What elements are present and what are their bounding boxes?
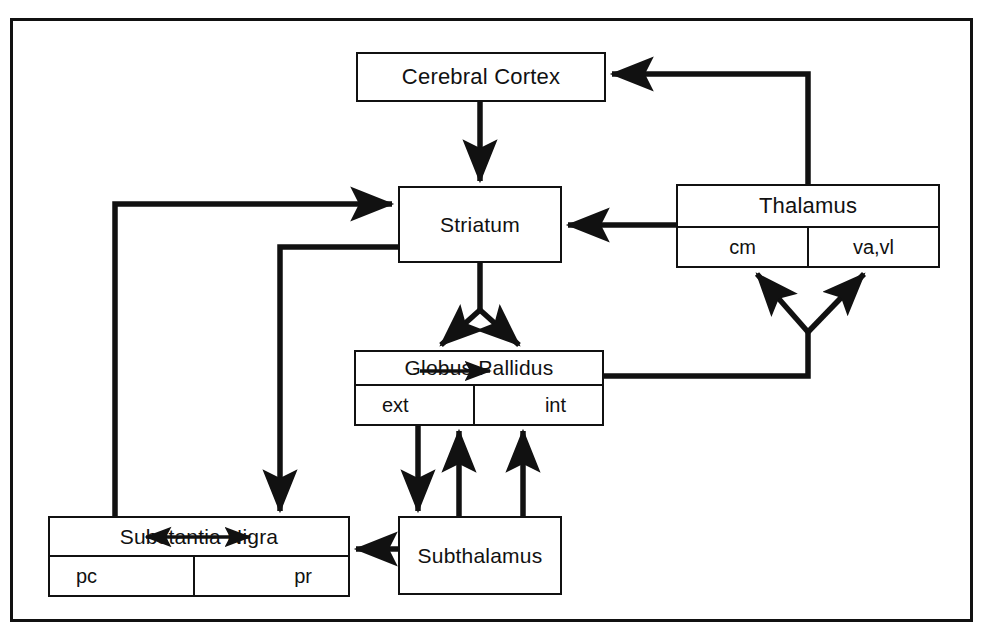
subcell-thalamus-cm[interactable]: cm (678, 228, 807, 266)
node-subthalamus-label: Subthalamus (400, 518, 560, 593)
subcell-nigra-pr[interactable]: pr (193, 557, 348, 595)
diagram-canvas: Cerebral Cortex Striatum Thalamus cm va,… (0, 0, 988, 642)
node-substantia-nigra-subcells: pc pr (50, 555, 348, 595)
subcell-globus-int[interactable]: int (473, 386, 602, 424)
node-striatum-label: Striatum (400, 188, 560, 261)
node-globus-pallidus-label: Globus Pallidus (356, 352, 602, 384)
subcell-nigra-pc[interactable]: pc (50, 557, 193, 595)
node-substantia-nigra[interactable]: Substantia Nigra pc pr (48, 516, 350, 597)
node-subthalamus[interactable]: Subthalamus (398, 516, 562, 595)
node-thalamus-label: Thalamus (678, 186, 938, 226)
node-substantia-nigra-label: Substantia Nigra (50, 518, 348, 555)
node-thalamus-subcells: cm va,vl (678, 226, 938, 266)
node-striatum[interactable]: Striatum (398, 186, 562, 263)
node-cerebral-cortex-label: Cerebral Cortex (358, 54, 604, 100)
node-cerebral-cortex[interactable]: Cerebral Cortex (356, 52, 606, 102)
subcell-globus-ext[interactable]: ext (356, 386, 473, 424)
node-thalamus[interactable]: Thalamus cm va,vl (676, 184, 940, 268)
subcell-thalamus-vavl[interactable]: va,vl (807, 228, 938, 266)
node-globus-pallidus[interactable]: Globus Pallidus ext int (354, 350, 604, 426)
node-globus-pallidus-subcells: ext int (356, 384, 602, 424)
